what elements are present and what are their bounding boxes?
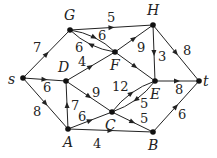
- node-A: [65, 126, 71, 132]
- node-F: [112, 49, 118, 55]
- node-B: [150, 129, 156, 135]
- arrow-icon: [86, 117, 93, 124]
- arrow-icon: [64, 102, 69, 108]
- edge-weight: 9: [92, 85, 100, 100]
- edge-weight: 5: [140, 111, 148, 126]
- edge-weight: 6: [98, 28, 106, 43]
- edge-weight: 12: [112, 79, 129, 94]
- edge-weight: 8: [33, 104, 41, 119]
- arrow-icon: [87, 41, 95, 48]
- edge-weight: 8: [175, 82, 183, 97]
- node-C: [109, 109, 115, 115]
- edge-weight: 4: [93, 136, 101, 151]
- edge-weight: 8: [183, 43, 191, 58]
- node-label: F: [109, 57, 121, 73]
- edge-weight: 6: [43, 80, 51, 95]
- edge-weight: 7: [33, 40, 41, 55]
- arrow-icon: [87, 63, 95, 70]
- arrow-icon: [90, 34, 98, 41]
- node-E: [152, 78, 158, 84]
- node-G: [67, 27, 73, 33]
- node-label: E: [149, 86, 160, 102]
- edge-weight: 6: [178, 107, 186, 122]
- edge-weight: 3: [158, 49, 166, 64]
- node-label: H: [146, 2, 160, 18]
- arrow-icon: [151, 50, 156, 56]
- node-D: [63, 78, 69, 84]
- node-label: C: [105, 117, 116, 133]
- arrow-icon: [108, 25, 114, 30]
- edge-weight: 9: [137, 40, 145, 55]
- node-H: [150, 22, 156, 28]
- edge-weight: 5: [140, 96, 148, 111]
- edge-weight: 6: [78, 109, 86, 124]
- graph-diagram: 76856649389764125586sGHDFEtACB: [0, 0, 217, 158]
- edge-weight: 5: [107, 10, 115, 25]
- node-label: s: [8, 71, 15, 87]
- node-label: t: [203, 73, 209, 89]
- node-t: [196, 78, 202, 84]
- edge-weight: 6: [75, 40, 83, 55]
- node-label: B: [147, 137, 158, 153]
- arrow-icon: [131, 63, 139, 71]
- node-label: A: [61, 134, 73, 150]
- edge-weight: 4: [78, 54, 86, 69]
- node-label: D: [57, 59, 69, 75]
- arrow-icon: [129, 118, 137, 125]
- node-label: G: [64, 7, 75, 23]
- node-s: [20, 75, 26, 81]
